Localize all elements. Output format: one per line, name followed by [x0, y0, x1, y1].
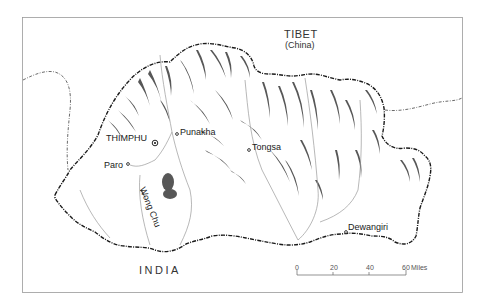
city-label-dewangiri[interactable]: Dewangiri	[348, 223, 388, 232]
paro-marker[interactable]	[127, 163, 130, 166]
international-border-west	[23, 71, 70, 170]
scale-bar	[297, 270, 406, 275]
scale-tick-0: 0	[295, 264, 299, 271]
international-border-east	[385, 98, 462, 111]
thimphu-marker-dot	[154, 142, 156, 144]
scale-tick-20: 20	[330, 264, 338, 271]
city-label-punakha[interactable]: Punakha	[180, 128, 216, 137]
region-label-tibet: TIBET	[284, 29, 318, 40]
tongsa-marker[interactable]	[248, 149, 251, 152]
punakha-marker[interactable]	[176, 133, 179, 136]
region-label-tibet-sub: (China)	[285, 41, 315, 50]
city-label-paro[interactable]: Paro	[104, 161, 123, 170]
region-label-india: INDIA	[139, 265, 181, 276]
dewangiri-marker[interactable]	[345, 231, 348, 234]
scale-tick-40: 40	[366, 264, 374, 271]
bhutan-border	[55, 43, 431, 251]
city-label-tongsa[interactable]: Tongsa	[252, 143, 281, 152]
city-label-thimphu[interactable]: THIMPHU	[106, 134, 147, 143]
scale-unit: Miles	[411, 264, 427, 271]
scale-tick-60: 60	[402, 264, 410, 271]
map-canvas	[0, 0, 486, 307]
